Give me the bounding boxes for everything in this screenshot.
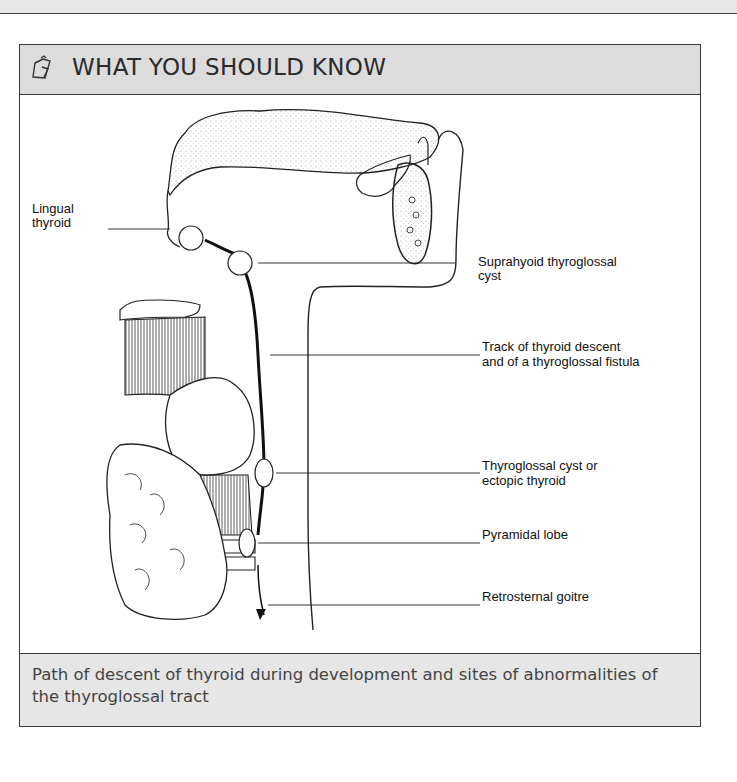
label-cyst-line2: ectopic thyroid	[482, 474, 566, 488]
label-retrosternal-goitre: Retrosternal goitre	[482, 590, 589, 604]
what-you-should-know-panel: WHAT YOU SHOULD KNOW	[19, 44, 701, 727]
figure-caption: Path of descent of thyroid during develo…	[20, 653, 700, 726]
label-cyst-line1: Thyroglossal cyst or	[482, 459, 598, 473]
label-lingual-thyroid-line1: Lingual	[32, 202, 74, 216]
label-suprahyoid-line2: cyst	[478, 269, 501, 283]
panel-header: WHAT YOU SHOULD KNOW	[20, 45, 700, 95]
panel-title: WHAT YOU SHOULD KNOW	[72, 54, 386, 80]
label-suprahyoid-line1: Suprahyoid thyroglossal	[478, 255, 617, 269]
clipboard-pencil-icon	[31, 55, 53, 81]
label-track-line2: and of a thyroglossal fistula	[482, 355, 640, 369]
page-header-strip	[0, 0, 737, 14]
label-lingual-thyroid-line2: thyroid	[32, 216, 71, 230]
thyroid-descent-diagram: Lingual thyroid Suprahyoid thyroglossal …	[20, 95, 700, 640]
label-track-line1: Track of thyroid descent	[482, 340, 620, 354]
label-pyramidal-lobe: Pyramidal lobe	[482, 528, 568, 542]
